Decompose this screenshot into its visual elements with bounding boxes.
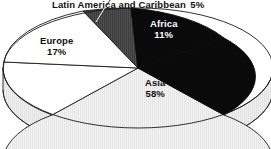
pie-chart-graphic: [0, 0, 271, 149]
pie-chart-screenshot: Latin America and Caribbean 5% Africa 11…: [0, 0, 271, 149]
